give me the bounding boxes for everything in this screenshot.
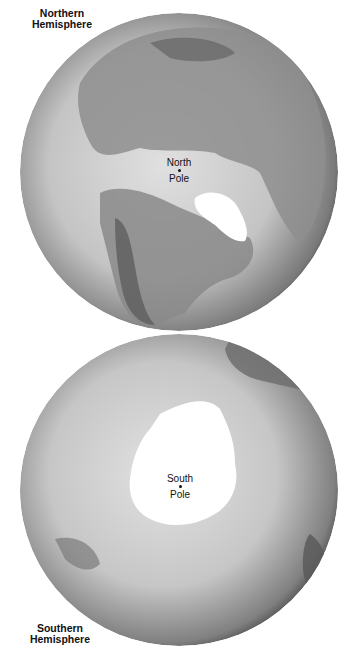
south-pole-line1: South [160, 473, 200, 484]
north-pole-line2: Pole [159, 173, 199, 184]
north-pole-line1: North [159, 157, 199, 168]
north-pole-marker-icon [178, 169, 181, 172]
southern-label-line2: Hemisphere [20, 634, 100, 645]
south-pole-label: South Pole [160, 473, 200, 500]
south-pole-marker-icon [179, 485, 182, 488]
southern-hemisphere-label: Southern Hemisphere [20, 623, 100, 645]
south-pole-line2: Pole [160, 489, 200, 500]
north-pole-label: North Pole [159, 157, 199, 184]
